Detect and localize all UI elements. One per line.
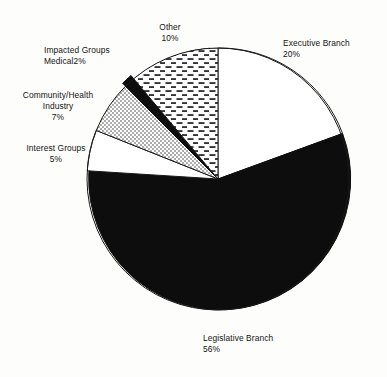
slice-label-name: Legislative Branch [203,333,273,344]
slice-label-impacted-groups-medical: Impacted Groups Medical2% [44,45,110,67]
slice-label-legislative-branch: Legislative Branch 56% [203,333,273,355]
slice-label-percent: Medical2% [44,56,110,67]
slice-label-name: Other [139,22,201,33]
slice-label-interest-groups: Interest Groups 5% [10,143,102,165]
slice-label-percent: 7% [6,112,110,123]
slice-label-name: Community/Health [6,90,110,101]
slice-label-percent: 20% [283,49,350,60]
slice-label-name-line2: Industry [6,101,110,112]
slice-label-other: Other 10% [139,22,201,44]
slice-label-percent: 10% [139,33,201,44]
slice-label-executive-branch: Executive Branch 20% [283,38,350,60]
slice-label-percent: 56% [203,344,273,355]
slice-label-name: Executive Branch [283,38,350,49]
pie-chart: Executive Branch 20% Other 10% Impacted … [0,0,387,377]
slice-label-name: Impacted Groups [44,45,110,56]
slice-label-name: Interest Groups [10,143,102,154]
slice-label-percent: 5% [10,154,102,165]
slice-label-community-health-industry: Community/Health Industry 7% [6,90,110,124]
